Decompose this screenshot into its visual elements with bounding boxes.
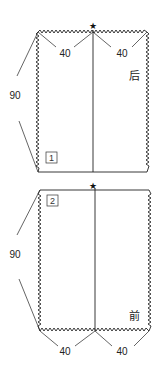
width-label-right: 40 [116,346,128,357]
piece-name-label: 后 [129,70,140,83]
piece-back: ★ 40 40 90 后 1 [9,21,149,172]
pattern-diagram: ★ 40 40 90 后 1 ★ 2 前 90 [0,0,164,389]
height-label: 90 [9,249,21,260]
star-marker-icon: ★ [89,181,97,191]
star-marker-icon: ★ [89,21,97,31]
zigzag-bottom-edge [40,328,149,331]
zigzag-left-edge [38,190,41,331]
width-label-left: 40 [59,346,71,357]
leader-line [19,121,38,172]
leader-line [17,190,40,235]
leader-line [95,331,112,346]
piece-number: 1 [49,153,54,163]
piece-front: ★ 2 前 90 40 40 [9,181,151,357]
leader-line [132,32,147,47]
width-label-right: 40 [116,48,128,59]
leader-line [75,331,95,346]
piece-number: 2 [50,196,55,206]
leader-line [19,279,40,331]
leader-line [134,331,149,346]
zigzag-right-edge [148,190,151,331]
leader-line [40,331,58,346]
zigzag-right-edge [146,32,149,172]
piece-name-label: 前 [129,309,140,323]
leader-line [17,32,38,76]
zigzag-left-edge [36,32,39,172]
width-label-left: 40 [59,48,71,59]
leader-line [93,32,111,47]
leader-line [38,32,56,47]
height-label: 90 [9,90,21,101]
leader-line [74,32,93,47]
